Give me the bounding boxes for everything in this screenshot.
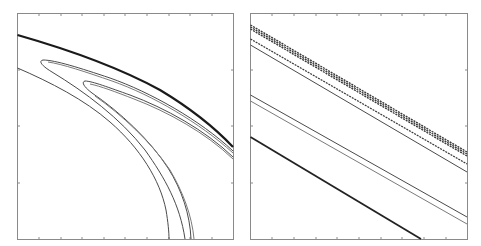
thick-top-curve: [18, 35, 234, 147]
upper-group-line-a: [251, 25, 468, 152]
middle-line-1: [251, 39, 468, 164]
right-y-ticks: [251, 70, 468, 183]
left-plot-frame: [18, 14, 234, 240]
dark-bottom-line: [251, 137, 422, 239]
left-y-ticks: [18, 70, 234, 183]
figure: [0, 0, 481, 246]
upper-group-line-b: [251, 27, 468, 154]
lower-pair-line-2: [251, 101, 468, 224]
outer-hairpin-strand: [48, 62, 233, 153]
left-panel: [18, 14, 234, 240]
right-panel: [251, 14, 468, 240]
middle-line-2: [251, 45, 468, 172]
inner-hairpin-curve: [83, 81, 233, 239]
upper-group-line-c: [251, 29, 468, 156]
